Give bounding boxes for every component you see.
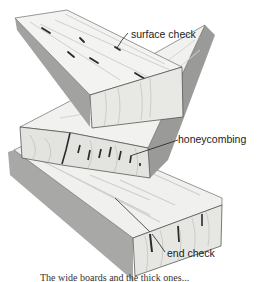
wood-defects-illustration: surface check honeycombing end check The…	[0, 0, 265, 282]
honeycombing-label: honeycombing	[178, 134, 246, 145]
surface-check-label: surface check	[131, 29, 196, 40]
end-check-label: end check	[167, 248, 215, 259]
figure-caption: The wide boards and the thick ones...	[40, 273, 189, 282]
